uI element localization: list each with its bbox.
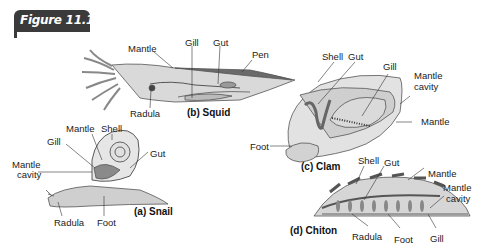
- squid-caption: (b) Squid: [187, 107, 230, 118]
- chiton-caption: (d) Chiton: [290, 225, 337, 236]
- snail-label-gut: Gut: [150, 149, 165, 159]
- chiton-label-shell: Shell: [358, 156, 379, 166]
- clam-label-gill: Gill: [383, 62, 397, 72]
- snail-drawing: [46, 130, 168, 207]
- chiton-label-gut: Gut: [384, 158, 399, 168]
- squid-label-radula: Radula: [130, 109, 160, 119]
- clam-caption: (c) Clam: [301, 161, 340, 172]
- snail-caption: (a) Snail: [134, 206, 173, 217]
- squid-label-pen: Pen: [252, 50, 269, 60]
- chiton-label-gill: Gill: [430, 234, 444, 244]
- clam-label-shell: Shell: [322, 52, 343, 62]
- snail-label-foot: Foot: [97, 218, 116, 228]
- clam-label-mantle: Mantle: [421, 117, 450, 127]
- squid-label-gill: Gill: [185, 38, 199, 48]
- snail-label-shell: Shell: [101, 124, 122, 134]
- chiton-label-mantle-cavity-line1: Mantle: [443, 183, 472, 193]
- clam-drawing: [286, 75, 402, 162]
- snail-label-gill: Gill: [47, 137, 61, 147]
- snail-label-mantle-cavity-line2: cavity: [17, 170, 41, 180]
- squid-label-mantle: Mantle: [128, 44, 157, 54]
- chiton-label-radula: Radula: [352, 232, 382, 242]
- chiton-label-mantle: Mantle: [428, 169, 457, 179]
- snail-label-radula: Radula: [54, 218, 84, 228]
- snail-label-mantle: Mantle: [66, 124, 95, 134]
- squid-label-gut: Gut: [213, 38, 228, 48]
- chiton-label-mantle-cavity-line2: cavity: [446, 194, 470, 204]
- clam-label-gut: Gut: [348, 52, 363, 62]
- clam-label-mantle-cavity-line2: cavity: [414, 82, 438, 92]
- chiton-label-foot: Foot: [394, 235, 413, 245]
- clam-label-mantle-cavity-line1: Mantle: [414, 71, 443, 81]
- clam-label-foot: Foot: [250, 142, 269, 152]
